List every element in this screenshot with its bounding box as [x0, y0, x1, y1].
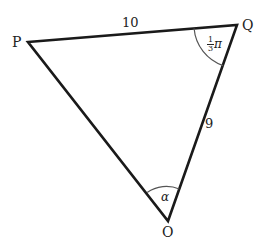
- triangle-figure: [0, 0, 272, 242]
- side-label-QO: 9: [205, 116, 213, 131]
- triangle-diagram: P Q O 10 9 1 3 π α: [0, 0, 272, 242]
- side-label-PQ: 10: [122, 15, 139, 30]
- angle-label-Q: 1 3 π: [207, 36, 222, 53]
- vertex-label-O: O: [162, 224, 173, 240]
- vertex-label-Q: Q: [242, 17, 253, 33]
- angle-label-O: α: [161, 190, 169, 204]
- pi-symbol: π: [214, 37, 222, 51]
- vertex-label-P: P: [12, 34, 21, 50]
